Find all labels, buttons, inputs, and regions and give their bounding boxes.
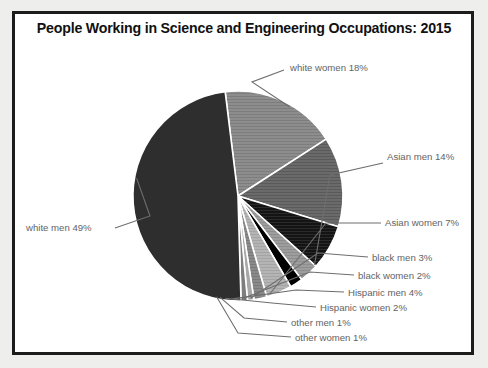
slice-label-hispanic-men: Hispanic men 4% xyxy=(348,288,423,298)
slice-label-other-women: other women 1% xyxy=(295,333,367,343)
slice-label-other-men: other men 1% xyxy=(291,318,351,328)
pie-slices xyxy=(133,91,343,301)
pie-chart xyxy=(0,0,488,368)
slice-label-black-men: black men 3% xyxy=(372,253,432,263)
slice-label-hispanic-women: Hispanic women 2% xyxy=(320,303,407,313)
slice-label-asian-women: Asian women 7% xyxy=(385,218,459,228)
slice-label-asian-men: Asian men 14% xyxy=(387,152,454,162)
leader-line-hispanic-women xyxy=(225,298,316,307)
slice-label-white-men: white men 49% xyxy=(26,223,92,233)
pie-slice-white-men xyxy=(133,92,241,301)
slice-label-black-women: black women 2% xyxy=(358,271,431,281)
chart-page: People Working in Science and Engineerin… xyxy=(0,0,488,368)
leader-line-other-women xyxy=(217,297,291,337)
slice-label-white-women: white women 18% xyxy=(290,63,368,73)
